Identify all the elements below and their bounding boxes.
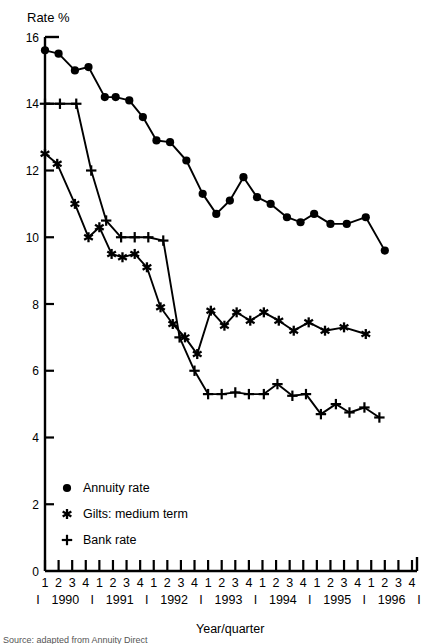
legend-item[interactable]: Bank rate: [62, 533, 137, 547]
marker-circle: [283, 213, 291, 221]
marker-circle: [63, 484, 71, 492]
y-tick-label: 12: [26, 164, 40, 178]
year-label: 1992: [160, 593, 188, 607]
marker-circle: [212, 210, 220, 218]
quarter-label: 3: [286, 576, 293, 590]
y-tick-label: 8: [32, 298, 39, 312]
marker-circle: [152, 136, 160, 144]
quarter-label: 2: [381, 576, 388, 590]
quarter-label: 3: [123, 576, 130, 590]
legend-label: Bank rate: [83, 533, 137, 547]
y-tick-label: 2: [32, 498, 39, 512]
year-separator: I: [199, 593, 202, 607]
quarter-label: 3: [341, 576, 348, 590]
year-separator: I: [36, 593, 39, 607]
quarter-label: 1: [150, 576, 157, 590]
quarter-label: 1: [205, 576, 212, 590]
marker-circle: [125, 96, 133, 104]
year-separator: I: [308, 593, 311, 607]
quarter-label: 3: [69, 576, 76, 590]
marker-circle: [296, 218, 304, 226]
quarter-label: 4: [354, 576, 361, 590]
marker-circle: [112, 93, 120, 101]
x-axis-ticks: [45, 560, 412, 571]
quarter-label: 4: [137, 576, 144, 590]
marker-circle: [166, 138, 174, 146]
marker-circle: [362, 213, 370, 221]
marker-circle: [54, 50, 62, 58]
legend-item[interactable]: Gilts: medium term: [63, 507, 188, 521]
quarter-label: 1: [313, 576, 320, 590]
quarter-label: 1: [368, 576, 375, 590]
quarter-label: 2: [55, 576, 62, 590]
year-separator: I: [254, 593, 257, 607]
quarter-label: 4: [300, 576, 307, 590]
year-label: 1996: [378, 593, 406, 607]
data-series-group: [40, 46, 389, 422]
quarter-label: 2: [164, 576, 171, 590]
legend-item[interactable]: Annuity rate: [63, 481, 150, 495]
marker-circle: [101, 93, 109, 101]
marker-circle: [226, 196, 234, 204]
series-line: [45, 104, 379, 418]
marker-circle: [343, 220, 351, 228]
chart-container: Rate % 0246810121416 1234123412341234123…: [0, 0, 435, 644]
quarter-label: 3: [232, 576, 239, 590]
series-gilts-medium-term: [41, 149, 370, 359]
quarter-label: 2: [273, 576, 280, 590]
quarter-label: 2: [109, 576, 116, 590]
year-separator: I: [145, 593, 148, 607]
marker-circle: [71, 66, 79, 74]
quarter-label: 4: [82, 576, 89, 590]
source-note: Source: adapted from Annuity Direct: [3, 635, 148, 644]
year-separator: I: [417, 593, 420, 607]
marker-circle: [239, 173, 247, 181]
year-separator: I: [91, 593, 94, 607]
rate-line-chart: Rate % 0246810121416 1234123412341234123…: [0, 0, 435, 644]
series-line: [45, 154, 366, 354]
marker-circle: [139, 113, 147, 121]
quarter-label: 1: [259, 576, 266, 590]
x-axis-quarter-labels: 1234123412341234123412341234: [42, 576, 416, 590]
legend: Annuity rateGilts: medium termBank rate: [62, 481, 188, 547]
year-label: 1995: [323, 593, 351, 607]
marker-circle: [267, 200, 275, 208]
series-line: [45, 50, 385, 250]
year-separator: I: [362, 593, 365, 607]
marker-circle: [199, 190, 207, 198]
marker-circle: [326, 220, 334, 228]
y-tick-label: 6: [32, 364, 39, 378]
quarter-label: 1: [42, 576, 49, 590]
quarter-label: 2: [327, 576, 334, 590]
year-label: 1991: [106, 593, 134, 607]
y-axis-title: Rate %: [27, 10, 70, 25]
series-bank-rate: [40, 99, 385, 423]
legend-label: Gilts: medium term: [83, 507, 188, 521]
quarter-label: 4: [245, 576, 252, 590]
quarter-label: 3: [177, 576, 184, 590]
marker-circle: [84, 63, 92, 71]
marker-circle: [310, 210, 318, 218]
legend-label: Annuity rate: [83, 481, 150, 495]
year-label: 1993: [215, 593, 243, 607]
year-label: 1994: [269, 593, 297, 607]
y-tick-label: 10: [26, 231, 40, 245]
quarter-label: 2: [218, 576, 225, 590]
marker-circle: [253, 193, 261, 201]
series-annuity-rate: [41, 46, 389, 254]
x-axis-title: Year/quarter: [196, 622, 264, 636]
y-tick-label: 4: [32, 431, 39, 445]
y-tick-label: 14: [26, 97, 40, 111]
x-axis-year-labels: I1990I1991I1992I1993I1994I1995I1996I: [36, 593, 421, 607]
quarter-label: 4: [191, 576, 198, 590]
y-tick-label: 16: [26, 31, 40, 45]
marker-circle: [41, 46, 49, 54]
y-tick-label: 0: [32, 565, 39, 579]
quarter-label: 1: [96, 576, 103, 590]
y-axis-ticks: 0246810121416: [26, 31, 54, 579]
quarter-label: 4: [409, 576, 416, 590]
year-label: 1990: [51, 593, 79, 607]
marker-circle: [381, 247, 389, 255]
quarter-label: 3: [395, 576, 402, 590]
marker-circle: [182, 156, 190, 164]
